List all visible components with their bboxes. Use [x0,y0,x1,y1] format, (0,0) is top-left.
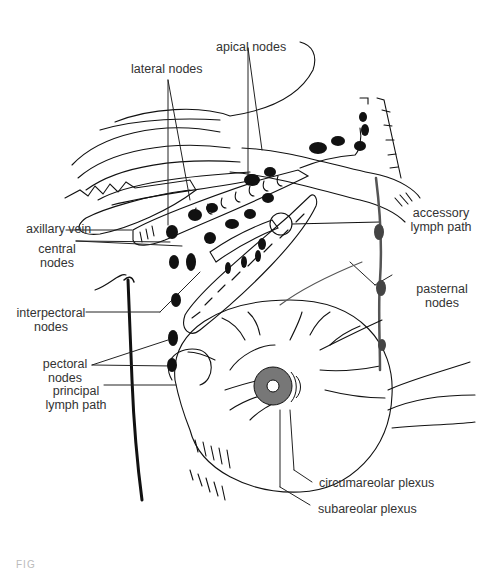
figure-caption-fragment: FIG [16,559,36,570]
label-axillary-vein: axillary vein [26,222,91,236]
principal-lymph-path-vessel [128,280,142,500]
label-pectoral-nodes: pectoral nodes [40,357,90,385]
nipple [267,380,279,392]
label-interpectoral-nodes: interpectoral nodes [16,306,86,334]
principal-lymph-path-line1: principal [44,384,108,398]
label-accessory-lymph-path: accessory lymph path [406,206,476,234]
pectoral-nodes-line1: pectoral [40,357,90,371]
label-central-nodes: central nodes [32,242,82,270]
pasternal-nodes-line2: nodes [412,296,472,310]
label-principal-lymph-path: principal lymph path [44,384,108,412]
pectoral-nodes-line2: nodes [40,371,90,385]
label-subareolar-plexus: subareolar plexus [318,502,417,516]
lymph-nodes [166,112,369,372]
pasternal-nodes-line1: pasternal [412,282,472,296]
shoulder-outline [115,42,315,122]
label-lateral-nodes: lateral nodes [131,62,203,76]
label-apical-nodes: apical nodes [216,40,286,54]
interpectoral-nodes-line1: interpectoral [16,306,86,320]
label-circumareolar-plexus: circumareolar plexus [319,476,434,490]
principal-lymph-path-line2: lymph path [44,398,108,412]
label-pasternal-nodes: pasternal nodes [412,282,472,310]
accessory-lymph-path-line1: accessory [406,206,476,220]
interpectoral-nodes-line2: nodes [16,320,86,334]
central-nodes-line2: nodes [32,256,82,270]
accessory-lymph-path-line2: lymph path [406,220,476,234]
central-nodes-line1: central [32,242,82,256]
